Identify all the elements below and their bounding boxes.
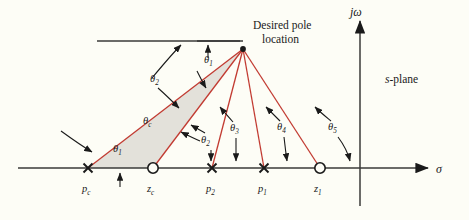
pointer-theta-4 [284, 137, 287, 161]
angle-label-theta-2-upper: θ2 [150, 73, 159, 87]
desired-pole-point [240, 46, 246, 52]
vector-from-p1 [243, 49, 264, 168]
pointer-theta-4-vector [266, 107, 280, 121]
s-plane-label: s-plane [385, 73, 418, 86]
label-p1: p1 [257, 183, 267, 197]
zero-marker-zc [148, 163, 158, 173]
s-plane-diagram: Desired pole location s-plane jω σ θc θ1… [0, 0, 469, 220]
desired-pole-label-line2: location [262, 33, 299, 45]
sigma-axis-label: σ [436, 162, 443, 176]
vector-from-z1 [243, 49, 320, 168]
pointer-theta-2-upper [152, 45, 181, 78]
angle-label-theta-2-lower: θ2 [201, 134, 210, 148]
pointer-theta-5 [338, 137, 350, 161]
angle-label-theta-4: θ4 [277, 121, 286, 135]
label-p2: p2 [205, 183, 215, 197]
label-pc: pc [81, 183, 91, 197]
desired-pole-label-line1: Desired pole [253, 19, 311, 32]
pointer-theta-5-vector [315, 107, 331, 121]
pointer-theta-c-wedge [181, 132, 200, 141]
pointer-theta-1-lower [61, 131, 92, 152]
pointer-theta-3-vector [220, 107, 233, 122]
pointer-theta-2-vector [191, 125, 205, 133]
angle-label-theta-3: θ3 [230, 122, 239, 136]
label-z1: z1 [313, 183, 322, 197]
zero-marker-z1 [315, 163, 325, 173]
pointer-theta-c-upper [158, 88, 179, 108]
singularity-labels: pc zc p2 p1 z1 [81, 183, 322, 197]
jomega-axis-label: jω [348, 5, 362, 19]
angle-label-theta-5: θ5 [328, 121, 337, 135]
label-zc: zc [146, 183, 155, 197]
angle-label-theta-1-upper: θ1 [204, 54, 213, 68]
